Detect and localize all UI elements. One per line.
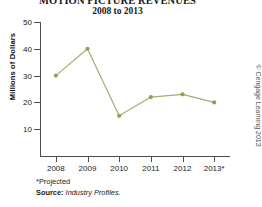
source-label: Source: — [36, 188, 64, 197]
data-point — [117, 114, 121, 118]
copyright-notice: © Cengage Learning 2013 — [255, 46, 262, 166]
source-value: Industry Profiles. — [66, 188, 121, 197]
revenue-line — [56, 49, 214, 116]
data-point — [54, 74, 58, 78]
data-point — [149, 95, 153, 99]
series-layer — [0, 0, 261, 207]
data-point — [180, 92, 184, 96]
projected-note: *Projected — [36, 177, 121, 186]
data-point — [85, 47, 89, 51]
chart-figure: MOTION PICTURE REVENUES 2008 to 2013 Mil… — [0, 0, 261, 207]
source-line: Source: Industry Profiles. — [36, 188, 121, 197]
data-point — [212, 100, 216, 104]
chart-footnotes: *Projected Source: Industry Profiles. — [36, 177, 121, 197]
